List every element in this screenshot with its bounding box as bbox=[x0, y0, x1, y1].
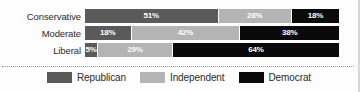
legend-swatch-independent bbox=[140, 72, 165, 83]
bar-segment-moderate-republican: 18% bbox=[85, 26, 132, 40]
stacked-bar-chart-figure: Conservative 51% 28% 18% Moderate 18% bbox=[0, 0, 360, 92]
bar-segment-moderate-democrat: 38% bbox=[240, 26, 338, 40]
bar-value-label: 5% bbox=[85, 46, 96, 54]
bar-segment-liberal-independent: 29% bbox=[98, 43, 173, 57]
chart-legend: Republican Independent Democrat bbox=[0, 72, 358, 83]
bar-segment-liberal-democrat: 64% bbox=[173, 43, 339, 57]
row-label-moderate: Moderate bbox=[0, 28, 85, 39]
chart-row-liberal: Liberal 5% 29% 64% bbox=[0, 43, 360, 57]
legend-divider bbox=[2, 66, 354, 67]
stacked-bar-conservative: 51% 28% 18% bbox=[85, 9, 339, 23]
stacked-bar-liberal: 5% 29% 64% bbox=[85, 43, 339, 57]
legend-item-democrat: Democrat bbox=[239, 72, 312, 83]
legend-label-independent: Independent bbox=[170, 72, 225, 83]
bar-value-label: 42% bbox=[178, 29, 193, 37]
chart-row-conservative: Conservative 51% 28% 18% bbox=[0, 9, 360, 23]
bar-segment-conservative-independent: 28% bbox=[219, 9, 292, 23]
legend-label-democrat: Democrat bbox=[269, 72, 312, 83]
chart-plot-area: Conservative 51% 28% 18% Moderate 18% bbox=[0, 9, 360, 60]
bar-segment-liberal-republican: 5% bbox=[85, 43, 98, 57]
row-label-liberal: Liberal bbox=[0, 45, 85, 56]
bar-value-label: 64% bbox=[248, 46, 263, 54]
bar-value-label: 51% bbox=[144, 12, 159, 20]
chart-row-moderate: Moderate 18% 42% 38% bbox=[0, 26, 360, 40]
stacked-bar-moderate: 18% 42% 38% bbox=[85, 26, 339, 40]
bar-segment-conservative-republican: 51% bbox=[85, 9, 219, 23]
legend-item-independent: Independent bbox=[140, 72, 225, 83]
legend-swatch-democrat bbox=[239, 72, 264, 83]
legend-item-republican: Republican bbox=[47, 72, 126, 83]
bar-segment-conservative-democrat: 18% bbox=[292, 9, 339, 23]
bar-value-label: 18% bbox=[100, 29, 115, 37]
bar-value-label: 38% bbox=[282, 29, 297, 37]
row-label-conservative: Conservative bbox=[0, 11, 85, 22]
bar-value-label: 28% bbox=[247, 12, 262, 20]
bar-value-label: 18% bbox=[308, 12, 323, 20]
legend-swatch-republican bbox=[47, 72, 72, 83]
bar-segment-moderate-independent: 42% bbox=[132, 26, 241, 40]
legend-label-republican: Republican bbox=[77, 72, 126, 83]
bar-value-label: 29% bbox=[127, 46, 142, 54]
